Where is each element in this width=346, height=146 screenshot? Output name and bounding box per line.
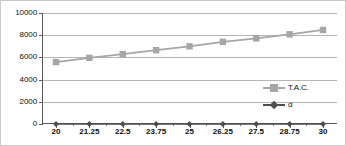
chart-legend: T.A.C. α [263, 79, 335, 113]
data-point-diamond [220, 121, 226, 127]
data-point-square [153, 47, 159, 53]
data-point-diamond [287, 121, 293, 127]
legend-item-tac[interactable]: T.A.C. [263, 79, 335, 96]
data-point-square [120, 51, 126, 57]
data-point-diamond [86, 121, 92, 127]
data-point-diamond [187, 121, 193, 127]
data-point-square [286, 31, 292, 37]
legend-label-alpha: α [288, 101, 292, 109]
series-alpha [53, 121, 326, 127]
series-tac [53, 27, 326, 65]
legend-label-tac: T.A.C. [288, 84, 309, 92]
legend-key-diamond-icon [263, 100, 285, 110]
data-point-square [86, 55, 92, 61]
data-point-diamond [53, 121, 59, 127]
legend-item-alpha[interactable]: α [263, 96, 335, 113]
data-point-square [186, 43, 192, 49]
data-point-square [53, 59, 59, 65]
data-point-square [320, 27, 326, 33]
data-point-diamond [120, 121, 126, 127]
chart-container: 1000080006000400020000 2021.2522.523.752… [0, 0, 346, 146]
data-point-square [220, 39, 226, 45]
legend-key-square-icon [263, 83, 285, 93]
data-point-diamond [253, 121, 259, 127]
data-point-diamond [320, 121, 326, 127]
data-point-diamond [153, 121, 159, 127]
data-series-group [1, 1, 346, 146]
data-point-square [253, 35, 259, 41]
